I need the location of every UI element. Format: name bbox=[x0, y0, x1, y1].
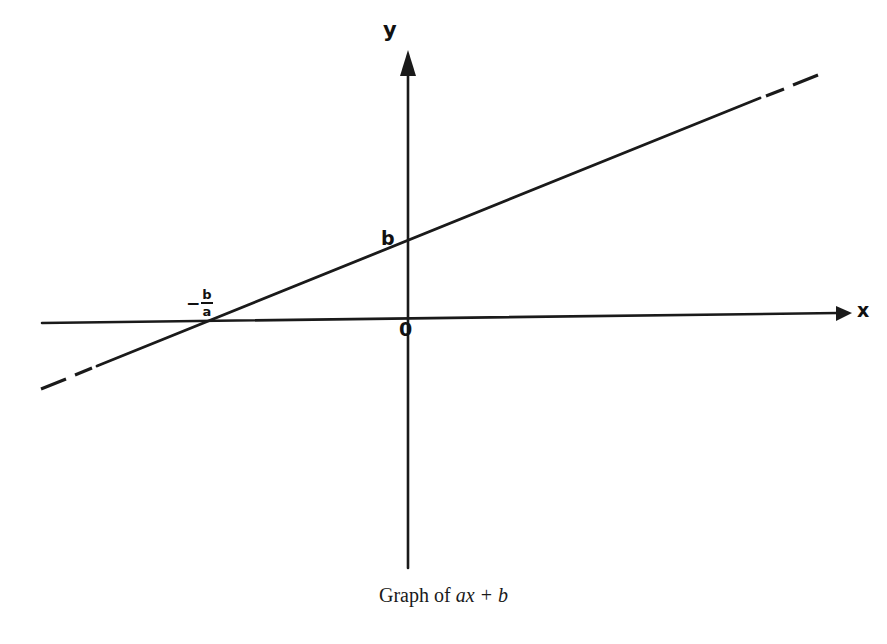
x-intercept-label: − b a bbox=[186, 288, 213, 319]
y-axis-arrowhead bbox=[400, 50, 416, 76]
function-dash-upper-right-inner bbox=[766, 89, 784, 96]
x-intercept-fraction: b a bbox=[201, 288, 212, 319]
caption-expression: ax + b bbox=[456, 584, 508, 606]
fraction-numerator: b bbox=[201, 288, 212, 301]
x-intercept-minus-sign: − bbox=[186, 295, 200, 312]
function-line-solid bbox=[97, 98, 760, 366]
function-dash-lower-left-outer bbox=[41, 379, 66, 389]
x-axis-line bbox=[42, 313, 838, 323]
origin-label: 0 bbox=[399, 320, 412, 339]
function-dash-upper-right-outer bbox=[793, 75, 818, 85]
function-dash-lower-left-inner bbox=[75, 368, 92, 375]
y-intercept-label: b bbox=[381, 229, 395, 248]
linear-function-figure: y x 0 b − b a Graph of ax + b bbox=[0, 0, 887, 644]
x-axis-arrowhead bbox=[836, 306, 852, 321]
y-axis-label: y bbox=[383, 20, 397, 41]
x-axis-label: x bbox=[857, 301, 869, 320]
fraction-denominator: a bbox=[202, 305, 213, 318]
caption-prefix: Graph of bbox=[379, 584, 456, 606]
graph-canvas bbox=[0, 0, 887, 644]
figure-caption: Graph of ax + b bbox=[0, 584, 887, 607]
